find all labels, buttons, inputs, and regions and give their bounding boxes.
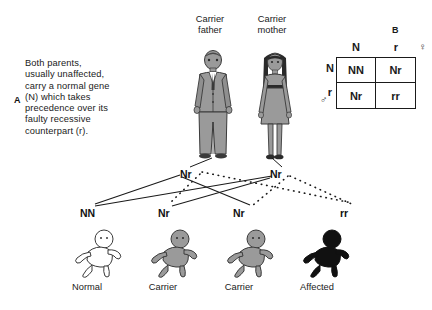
baby-figure-carrier-icon-2 bbox=[224, 228, 280, 282]
punnett-column-header-0: N bbox=[348, 41, 364, 53]
offspring-label-carrier-2: Carrier bbox=[204, 282, 274, 292]
adult-female-figure-icon bbox=[249, 50, 301, 166]
caption-mother-line2: mother bbox=[258, 25, 287, 35]
panel-b-label: B bbox=[392, 25, 399, 35]
genotype-offspring-2: Nr bbox=[233, 207, 245, 219]
offspring-label-carrier-1: Carrier bbox=[128, 282, 198, 292]
male-symbol-icon: ♂ bbox=[320, 95, 328, 105]
panel-a-line-0: Both parents, bbox=[25, 58, 82, 68]
offspring-label-affected: Affected bbox=[282, 282, 352, 292]
punnett-cell-0-1: Nr bbox=[376, 58, 415, 82]
baby-figure-normal-icon bbox=[72, 228, 128, 282]
punnett-cell-1-1: rr bbox=[376, 83, 415, 108]
genotype-father: Nr bbox=[180, 168, 192, 180]
punnett-inheritance-diagram: A Both parents, usually unaffected, carr… bbox=[0, 0, 432, 310]
panel-a-label: A bbox=[14, 95, 21, 105]
panel-a-description: Both parents, usually unaffected, carry … bbox=[25, 58, 150, 137]
punnett-cell-0-0: NN bbox=[337, 58, 376, 82]
caption-father-line1: Carrier bbox=[196, 14, 224, 24]
baby-figure-affected-icon bbox=[300, 228, 356, 282]
genotype-offspring-3: rr bbox=[340, 207, 348, 219]
offspring-label-normal: Normal bbox=[52, 282, 122, 292]
punnett-row-0: NN Nr bbox=[337, 58, 415, 83]
panel-a-line-1: usually unaffected, bbox=[25, 69, 104, 79]
punnett-cell-1-0: Nr bbox=[337, 83, 376, 108]
punnett-row-1: Nr rr bbox=[337, 83, 415, 108]
female-symbol-icon: ♀ bbox=[419, 42, 427, 52]
caption-father-line2: father bbox=[198, 25, 222, 35]
caption-mother-line1: Carrier bbox=[258, 14, 286, 24]
panel-a-line-2: carry a normal gene bbox=[25, 81, 110, 91]
caption-carrier-mother: Carrier mother bbox=[232, 14, 312, 36]
genotype-offspring-0: NN bbox=[80, 207, 95, 219]
panel-a-line-6: counterpart (r). bbox=[25, 126, 88, 136]
panel-a-line-3: (N) which takes bbox=[25, 92, 91, 102]
genotype-offspring-1: Nr bbox=[158, 207, 170, 219]
genotype-mother: Nr bbox=[270, 168, 282, 180]
panel-a-line-5: faulty recessive bbox=[25, 114, 91, 124]
adult-male-figure-icon bbox=[186, 50, 240, 166]
punnett-column-header-1: r bbox=[388, 41, 404, 53]
punnett-square-table: NN Nr Nr rr bbox=[336, 57, 416, 109]
baby-figure-carrier-icon bbox=[148, 228, 204, 282]
panel-a-line-4: precedence over its bbox=[25, 103, 108, 113]
